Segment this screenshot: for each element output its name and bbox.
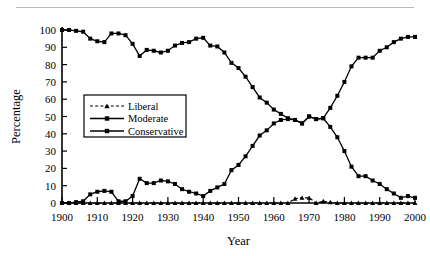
data-point-marker: [314, 117, 318, 121]
data-point-marker: [152, 49, 156, 53]
data-point-marker: [74, 29, 78, 33]
data-point-marker: [74, 200, 78, 204]
data-point-marker: [392, 40, 396, 44]
data-point-marker: [173, 182, 177, 186]
data-point-marker: [138, 54, 142, 58]
legend-label-conservative: Conservative: [128, 126, 184, 137]
data-point-marker: [265, 101, 269, 105]
data-point-marker: [145, 181, 149, 185]
x-tick-label: 1910: [86, 211, 109, 223]
data-point-marker: [201, 194, 205, 198]
data-point-marker: [385, 187, 389, 191]
data-point-marker: [166, 49, 170, 53]
data-point-marker: [279, 112, 283, 116]
y-tick-label: 60: [45, 93, 57, 105]
data-point-marker: [166, 179, 170, 183]
x-tick-label: 1950: [228, 211, 251, 223]
data-point-marker: [208, 44, 212, 48]
data-point-marker: [194, 191, 198, 195]
data-point-marker: [349, 64, 353, 68]
y-tick-label: 50: [45, 111, 57, 123]
data-point-marker: [180, 41, 184, 45]
data-point-marker: [357, 56, 361, 60]
data-point-marker: [109, 190, 113, 194]
data-point-marker: [124, 199, 128, 203]
data-point-marker: [215, 44, 219, 48]
data-point-marker: [293, 118, 297, 122]
data-point-marker: [258, 95, 262, 99]
chart-legend: LiberalModerateConservative: [84, 95, 186, 137]
x-tick-label: 1900: [51, 211, 74, 223]
data-point-marker: [67, 201, 71, 205]
y-axis-title: Percentage: [9, 89, 23, 144]
data-point-marker: [237, 163, 241, 167]
data-point-marker: [258, 134, 262, 138]
data-point-marker: [251, 85, 255, 89]
data-point-marker: [265, 128, 269, 132]
data-point-marker: [378, 49, 382, 53]
data-point-marker: [385, 45, 389, 49]
data-point-marker: [180, 187, 184, 191]
x-axis-tick-labels: 1900191019201930194019501960197019801990…: [51, 211, 427, 223]
data-point-marker: [357, 174, 361, 178]
data-point-marker: [371, 179, 375, 183]
data-point-marker: [364, 56, 368, 60]
data-point-marker: [392, 191, 396, 195]
data-point-marker: [222, 50, 226, 54]
data-point-marker: [201, 36, 205, 40]
data-point-marker: [378, 182, 382, 186]
data-point-marker: [222, 182, 226, 186]
x-tick-label: 1920: [122, 211, 145, 223]
data-point-marker: [131, 42, 135, 46]
data-point-marker: [399, 196, 403, 200]
data-point-marker: [229, 61, 233, 65]
data-point-marker: [124, 33, 128, 37]
data-point-marker: [116, 199, 120, 203]
data-point-marker: [67, 28, 71, 32]
data-point-marker: [187, 190, 191, 194]
data-point-marker: [81, 30, 85, 34]
chart-canvas: 0102030405060708090100 19001910192019301…: [0, 0, 430, 256]
y-tick-label: 100: [40, 24, 57, 36]
figure-container: 0102030405060708090100 19001910192019301…: [0, 0, 430, 256]
data-point-marker: [81, 199, 85, 203]
data-point-marker: [173, 44, 177, 48]
data-point-marker: [60, 201, 64, 205]
data-point-marker: [145, 48, 149, 52]
y-tick-label: 0: [51, 197, 57, 209]
x-axis-title: Year: [227, 234, 251, 248]
y-tick-label: 90: [45, 41, 57, 53]
data-point-marker: [286, 116, 290, 120]
data-point-marker: [328, 125, 332, 129]
data-point-marker: [251, 144, 255, 148]
data-point-marker: [229, 168, 233, 172]
data-point-marker: [215, 185, 219, 189]
y-tick-label: 40: [45, 128, 57, 140]
data-point-marker: [342, 149, 346, 153]
data-point-marker: [413, 35, 417, 39]
data-point-marker: [328, 106, 332, 110]
data-point-marker: [300, 121, 304, 125]
x-tick-label: 1930: [157, 211, 180, 223]
data-point-marker: [399, 37, 403, 41]
x-tick-label: 1980: [333, 211, 356, 223]
data-point-marker: [244, 154, 248, 158]
x-tick-label: 1970: [298, 211, 321, 223]
data-point-marker: [109, 31, 113, 35]
data-point-marker: [237, 66, 241, 70]
data-point-marker: [335, 135, 339, 139]
data-point-marker: [272, 121, 276, 125]
legend-label-moderate: Moderate: [128, 113, 169, 124]
data-point-marker: [364, 174, 368, 178]
y-tick-label: 70: [45, 76, 57, 88]
data-point-marker: [244, 75, 248, 79]
data-point-marker: [194, 37, 198, 41]
data-point-marker: [60, 28, 64, 32]
x-tick-label: 2000: [404, 211, 427, 223]
data-point-marker: [102, 189, 106, 193]
data-point-marker: [413, 196, 417, 200]
data-point-marker: [321, 116, 325, 120]
data-point-marker: [159, 179, 163, 183]
data-point-marker: [349, 165, 353, 169]
data-point-marker: [131, 194, 135, 198]
